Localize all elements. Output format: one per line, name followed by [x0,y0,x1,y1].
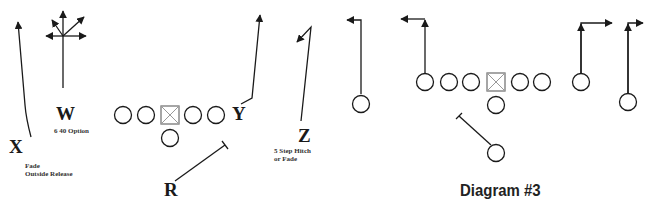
quarterback [162,130,179,147]
r-block-tee [222,141,228,149]
label-r: R [164,180,178,199]
slot-right-route [581,23,612,73]
rb-route-block [459,116,491,145]
y-route [241,15,260,104]
slot-left [417,74,434,91]
play-diagrams: X Fade Outside Release W 6 40 Option Y Z… [0,0,654,205]
r-route-block [175,145,225,181]
lineman-rg [185,107,202,124]
lineman-rg [512,74,529,91]
lineman-lt [115,107,132,124]
note-z-line2: or Fade [274,155,297,164]
play-diagram-canvas [0,0,654,205]
quarterback [488,97,505,114]
left-diagram [18,11,311,181]
w-option-arrows [46,11,86,36]
x-route-fade [18,22,31,137]
label-x: X [9,137,23,156]
label-w: W [56,104,75,123]
lineman-rt [534,74,551,91]
lineman-rt [208,107,225,124]
lineman-lg [463,74,480,91]
note-w: 6 40 Option [54,127,89,136]
z-route [297,27,311,121]
lineman-lg [138,107,155,124]
wr-left-route [347,20,361,94]
running-back [488,145,505,162]
label-z: Z [298,126,311,145]
label-y: Y [232,104,246,123]
diagram-caption: Diagram #3 [460,182,541,199]
slot-right [573,74,590,91]
lineman-lt [441,74,458,91]
right-diagram [347,19,643,162]
wr-left [353,96,370,113]
wr-right [620,94,637,111]
wr-right-route [628,23,643,93]
note-x-line2: Outside Release [25,170,73,179]
